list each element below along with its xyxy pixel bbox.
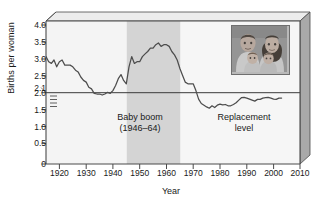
chart-top-face (46, 12, 310, 21)
family-photo-image (232, 26, 287, 72)
x-axis-title: Year (46, 186, 296, 196)
y-tick-label: 4.0 (20, 21, 46, 29)
y-tick-label: 1.5 (20, 106, 46, 114)
y-tick-label: 0.5 (20, 139, 46, 147)
baby-boom-annotation: Baby boom (1946–64) (104, 112, 176, 134)
y-tick-label: 0 (20, 160, 46, 168)
replacement-level-annotation: Replacement level (206, 112, 282, 134)
fertility-rate-chart: Births per woman 4.0 3.5 3.0 2.5 2.1 2.0… (0, 0, 323, 207)
y-tick-label: 3.5 (20, 38, 46, 46)
y-tick-label: 2.0 (20, 89, 46, 97)
y-tick-label: 1.0 (20, 123, 46, 131)
family-photo-inset (231, 25, 290, 75)
y-tick-label: 2.5 (20, 72, 46, 80)
chart-right-face (300, 12, 310, 164)
x-axis-tick-labels: 1920 1930 1940 1950 1960 1970 1980 1990 … (0, 168, 323, 182)
x-tick-label: 2010 (283, 168, 317, 178)
y-tick-label: 3.0 (20, 55, 46, 63)
